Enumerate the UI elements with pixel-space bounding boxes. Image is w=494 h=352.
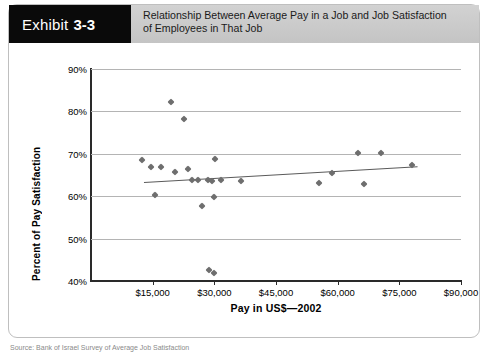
- exhibit-title: Relationship Between Average Pay in a Jo…: [131, 5, 479, 43]
- x-axis-tick: [461, 280, 462, 285]
- gridline: [91, 154, 461, 155]
- data-point: [211, 194, 218, 201]
- data-point: [139, 157, 146, 164]
- exhibit-badge-word: Exhibit: [22, 16, 68, 33]
- gridline: [91, 111, 461, 112]
- data-point: [180, 115, 187, 122]
- exhibit-header: Exhibit 3-3 Relationship Between Average…: [9, 5, 479, 43]
- y-axis-tick-label: 50%: [53, 233, 87, 244]
- data-point: [194, 177, 201, 184]
- x-axis-tick-label: $90,000: [444, 287, 478, 298]
- gridline: [91, 239, 461, 240]
- gridline: [91, 196, 461, 197]
- y-axis-tick-label: 80%: [53, 106, 87, 117]
- data-point: [355, 149, 362, 156]
- data-point: [361, 180, 368, 187]
- data-point: [147, 163, 154, 170]
- x-axis-tick-label: $75,000: [382, 287, 416, 298]
- x-axis-tick: [338, 280, 339, 285]
- data-point: [198, 202, 205, 209]
- exhibit-badge-number: 3-3: [73, 16, 95, 33]
- exhibit-title-line1: Relationship Between Average Pay in a Jo…: [143, 9, 471, 22]
- exhibit-badge: Exhibit 3-3: [9, 5, 131, 43]
- x-axis-tick-label: $15,000: [135, 287, 169, 298]
- x-axis-tick-label: $30,000: [197, 287, 231, 298]
- x-axis-tick: [153, 280, 154, 285]
- x-axis-title: Pay in US$—2002: [90, 302, 462, 314]
- data-point: [151, 191, 158, 198]
- x-axis-tick-label: $45,000: [259, 287, 293, 298]
- data-point: [172, 168, 179, 175]
- data-point: [212, 156, 219, 163]
- y-axis-tick-label: 60%: [53, 191, 87, 202]
- x-axis-tick: [276, 280, 277, 285]
- y-axis-tick-label: 40%: [53, 276, 87, 287]
- data-point: [184, 166, 191, 173]
- y-axis-title: Percent of Pay Satisfaction: [29, 139, 43, 289]
- plot-area: [91, 69, 461, 281]
- x-axis-tick: [399, 280, 400, 285]
- x-axis-tick-label: $60,000: [320, 287, 354, 298]
- y-axis-tick-label: 90%: [53, 64, 87, 75]
- y-axis-tick-label: 70%: [53, 148, 87, 159]
- data-point: [238, 178, 245, 185]
- data-point: [377, 149, 384, 156]
- data-point: [217, 177, 224, 184]
- scatter-chart: Percent of Pay Satisfaction 40%50%60%70%…: [9, 44, 479, 336]
- data-point: [210, 270, 217, 277]
- data-point: [168, 99, 175, 106]
- y-axis-tick-labels: 40%50%60%70%80%90%: [53, 44, 87, 336]
- data-point: [316, 180, 323, 187]
- x-axis-tick: [214, 280, 215, 285]
- data-point: [157, 164, 164, 171]
- gridline: [91, 69, 461, 70]
- exhibit-title-line2: of Employees in That Job: [143, 22, 471, 35]
- source-caption: Source: Bank of Israel Survey of Average…: [10, 344, 189, 351]
